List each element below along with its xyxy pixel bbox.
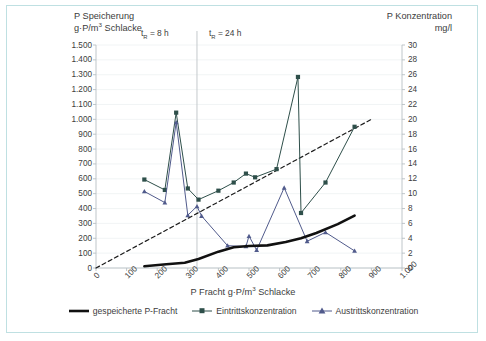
- y-axis-left-tick: 400: [54, 204, 92, 213]
- left-axis-title-units-pre: g·P/m: [74, 23, 99, 33]
- bottom-axis-title-post: Schlacke: [256, 287, 296, 297]
- y-axis-right-tick: 6: [408, 219, 438, 228]
- annotation-tr-8h-post: = 8 h: [148, 28, 169, 38]
- legend-item[interactable]: Eintrittskonzentration: [191, 306, 296, 316]
- y-axis-left-tick: 700: [54, 159, 92, 168]
- legend-label: Eintrittskonzentration: [216, 306, 296, 316]
- y-axis-right-tick: 18: [408, 130, 438, 139]
- legend-line-icon: [68, 306, 90, 316]
- y-axis-left-tick: 800: [54, 145, 92, 154]
- left-axis-title-line1: P Speicherung: [74, 12, 134, 21]
- left-axis-title-units-post: Schlacke: [102, 23, 142, 33]
- left-axis-title-line2: g·P/m3 Schlacke: [74, 24, 142, 33]
- bottom-axis-title-pre: P Fracht g·P/m: [191, 287, 253, 297]
- y-axis-left-tick: 1.500: [54, 41, 92, 50]
- y-axis-left-tick: 900: [54, 130, 92, 139]
- y-axis-right-tick: 10: [408, 189, 438, 198]
- y-axis-left-tick: 100: [54, 249, 92, 258]
- y-axis-right-tick: 4: [408, 234, 438, 243]
- y-axis-right-tick: 26: [408, 70, 438, 79]
- legend-label: Austrittskonzentration: [336, 306, 419, 316]
- y-axis-left-tick: 1.000: [54, 115, 92, 124]
- y-axis-right-tick: 30: [408, 41, 438, 50]
- y-axis-left-tick: 200: [54, 234, 92, 243]
- annotation-tr-24h: tR = 24 h: [209, 29, 241, 41]
- y-axis-right-tick: 22: [408, 100, 438, 109]
- y-axis-left-tick: 1.300: [54, 70, 92, 79]
- right-axis-title-line2: mg/l: [435, 24, 452, 33]
- right-axis-title-line1: P Konzentration: [387, 12, 452, 21]
- y-axis-right-tick: 16: [408, 145, 438, 154]
- annotation-tr-24h-post: = 24 h: [216, 28, 242, 38]
- y-axis-left-tick: 500: [54, 189, 92, 198]
- y-axis-right-tick: 24: [408, 85, 438, 94]
- legend-item[interactable]: Austrittskonzentration: [311, 306, 419, 316]
- y-axis-right-tick: 20: [408, 115, 438, 124]
- y-axis-left-tick: 300: [54, 219, 92, 228]
- chart-legend: gespeicherte P-FrachtEintrittskonzentrat…: [0, 306, 486, 316]
- bottom-axis-title: P Fracht g·P/m3 Schlacke: [0, 288, 486, 297]
- y-axis-right-tick: 8: [408, 204, 438, 213]
- data-series-group: [96, 75, 371, 268]
- legend-triangle-icon: [311, 306, 333, 316]
- y-axis-left-tick: 1.400: [54, 55, 92, 64]
- legend-item[interactable]: gespeicherte P-Fracht: [68, 306, 178, 316]
- y-axis-right-tick: 2: [408, 249, 438, 258]
- legend-square-icon: [191, 306, 213, 316]
- y-axis-left-tick: 0: [54, 264, 92, 273]
- y-axis-left-tick: 600: [54, 174, 92, 183]
- y-axis-left-tick: 1.100: [54, 100, 92, 109]
- legend-label: gespeicherte P-Fracht: [93, 306, 178, 316]
- annotation-tr-8h: tR = 8 h: [141, 29, 169, 41]
- y-axis-left-tick: 1.200: [54, 85, 92, 94]
- y-axis-right-tick: 14: [408, 159, 438, 168]
- y-axis-right-tick: 28: [408, 55, 438, 64]
- y-axis-right-tick: 12: [408, 174, 438, 183]
